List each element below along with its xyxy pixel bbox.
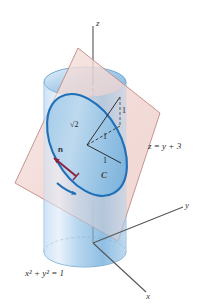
- cylinder-equation-label: x² + y² = 1: [24, 268, 64, 278]
- normal-vector-label: n: [58, 145, 63, 154]
- x-axis-label: x: [145, 291, 150, 301]
- dimension-sqrt2-label: √2: [70, 120, 78, 129]
- dimension-vertical-label: 1: [122, 106, 126, 115]
- plane-equation-label: z = y + 3: [147, 141, 182, 151]
- z-axis-label: z: [95, 18, 100, 28]
- curve-C-label: C: [101, 170, 108, 180]
- dimension-diagonal-label: 1: [103, 132, 107, 141]
- y-axis-label: y: [184, 200, 189, 210]
- diagram-canvas: z z = y + 3 C: [0, 0, 207, 307]
- figure-container: z z = y + 3 C: [0, 0, 207, 307]
- dimension-horizontal-label: 1: [103, 156, 107, 165]
